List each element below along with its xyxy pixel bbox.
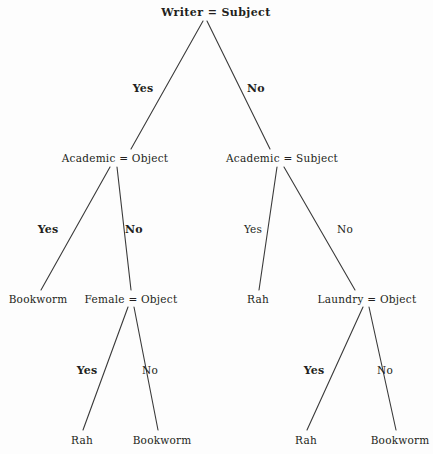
tree-branch-label-no-1: No [247,82,265,95]
tree-branch-label-no-7: No [142,364,158,376]
tree-leaf-bookworm-1: Bookworm [9,293,68,305]
tree-branch-label-yes-6: Yes [77,364,98,377]
tree-branch-label-no-3: No [125,223,143,236]
tree-branch-label-no-9: No [377,364,393,376]
tree-node-female-object: Female = Object [85,293,178,305]
tree-branch-label-no-5: No [337,223,353,235]
decision-tree-diagram: Writer = Subject Academic = Object Acade… [0,0,433,454]
tree-edges-layer [0,0,433,454]
tree-leaf-rah-2: Rah [71,434,93,446]
tree-branch-label-yes-0: Yes [133,82,154,95]
tree-leaf-bookworm-3: Bookworm [371,434,430,446]
tree-node-academic-subject: Academic = Subject [226,152,338,164]
tree-leaf-rah-3: Rah [295,434,317,446]
tree-leaf-bookworm-2: Bookworm [133,434,192,446]
tree-leaf-rah-1: Rah [247,293,269,305]
tree-branch-label-yes-8: Yes [304,364,325,377]
tree-branch-label-yes-2: Yes [38,223,59,236]
tree-node-laundry-object: Laundry = Object [318,293,417,305]
tree-node-root: Writer = Subject [161,6,270,19]
tree-node-academic-object: Academic = Object [62,152,168,164]
tree-branch-label-yes-4: Yes [244,223,262,235]
